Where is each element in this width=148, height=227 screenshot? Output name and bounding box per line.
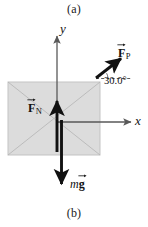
diagram-canvas [0, 0, 148, 227]
force-normal-label: FN [28, 99, 42, 116]
weight-label: m g [70, 178, 85, 190]
y-axis-label: y [60, 22, 66, 35]
crate-object [8, 82, 100, 155]
force-normal-symbol: F [28, 102, 35, 114]
figure-caption-b: (b) [0, 206, 148, 221]
force-normal-subscript: N [36, 106, 42, 116]
force-normal-letter: F [28, 101, 35, 115]
force-applied-subscript: P [126, 51, 131, 61]
gravity-letter: g [79, 177, 85, 191]
force-applied-label: FP [118, 44, 131, 61]
force-applied-letter: F [118, 46, 125, 60]
gravity-symbol: g [79, 178, 85, 190]
force-applied-symbol: F [118, 47, 125, 59]
physics-free-body-diagram: (a) y x [0, 0, 148, 227]
x-axis-label: x [135, 114, 141, 127]
angle-label: 30.0° [104, 76, 127, 87]
mass-symbol: m [70, 177, 79, 191]
